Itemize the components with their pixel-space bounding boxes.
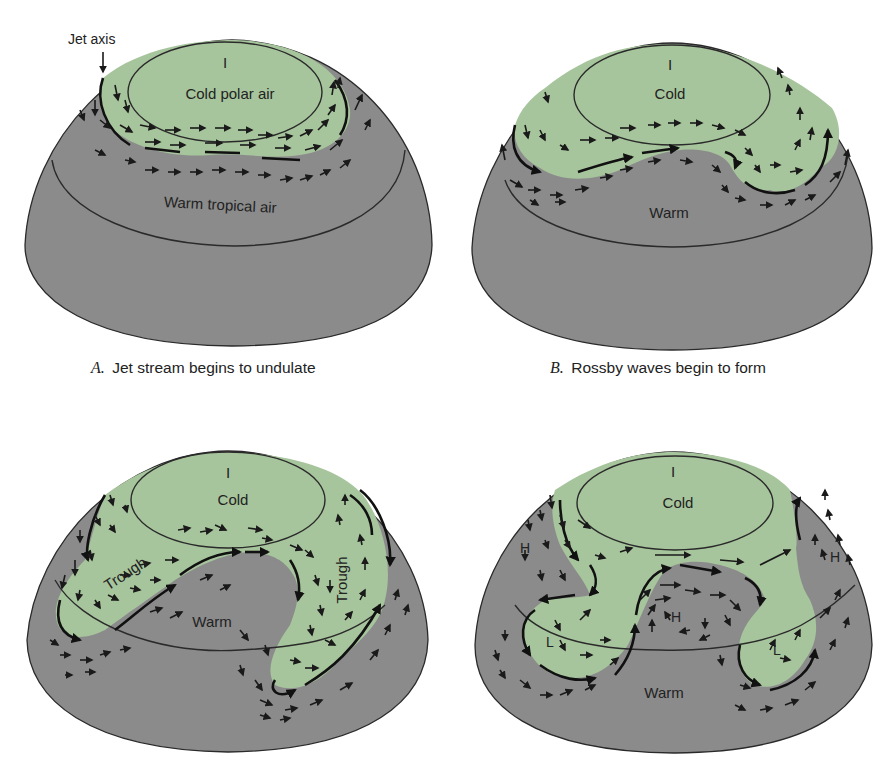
warm-label-d: Warm xyxy=(644,684,683,701)
pole-mark-c: I xyxy=(226,464,230,481)
high-label-right: H xyxy=(830,549,840,565)
caption-a-text: Jet stream begins to undulate xyxy=(112,359,315,376)
pole-mark-a: I xyxy=(223,54,227,71)
caption-b-text: Rossby waves begin to form xyxy=(571,359,766,376)
pole-mark-d: I xyxy=(671,463,675,480)
pole-mark-b: I xyxy=(668,56,672,73)
panel-b: I Cold Warm xyxy=(472,43,872,350)
low-label-right: L xyxy=(773,642,781,658)
caption-a-letter: A. xyxy=(90,359,105,376)
high-label-left: H xyxy=(520,540,530,556)
cold-label-b: Cold xyxy=(655,85,686,102)
trough-label-right: Trough xyxy=(333,557,350,604)
warm-label-c: Warm xyxy=(192,613,231,630)
low-label-left: L xyxy=(546,634,554,650)
panel-c: I Cold Warm Trough Trough xyxy=(27,451,428,752)
caption-b: B. Rossby waves begin to form xyxy=(550,359,766,376)
panel-d: I Cold Warm H H H L L xyxy=(475,452,872,753)
high-label-center: H xyxy=(671,609,681,625)
cold-label-d: Cold xyxy=(663,494,694,511)
warm-label-b: Warm xyxy=(649,204,688,221)
jet-axis-label: Jet axis xyxy=(68,31,115,47)
panel-a: I Cold polar air Warm tropical air Jet a… xyxy=(25,31,432,346)
rossby-wave-diagram: I Cold polar air Warm tropical air Jet a… xyxy=(0,0,896,762)
caption-b-letter: B. xyxy=(550,359,564,376)
caption-a: A. Jet stream begins to undulate xyxy=(90,359,316,376)
cold-label-c: Cold xyxy=(218,491,249,508)
cold-label-a: Cold polar air xyxy=(185,85,274,102)
